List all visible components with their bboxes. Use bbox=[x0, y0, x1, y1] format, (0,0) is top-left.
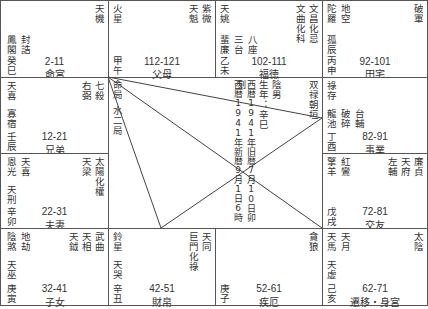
star-tianma: 天馬 bbox=[326, 232, 337, 252]
main-star: 太陰 bbox=[413, 232, 424, 252]
age-range: 72-81 bbox=[323, 206, 427, 217]
palace-xiongdi[interactable]: 七殺 右弼 天喜 寡宿 壬辰 12-21 兄弟 bbox=[0, 77, 109, 154]
star-tianyao: 天姚 bbox=[219, 4, 230, 24]
pattern: 双禄朝垣 bbox=[308, 80, 319, 120]
star-guasu: 寡宿 bbox=[6, 109, 17, 129]
star-tianwu: 天巫 bbox=[6, 260, 17, 280]
age-range: 82-91 bbox=[323, 131, 427, 142]
minor-star: 天魁 bbox=[188, 4, 199, 24]
star-fengge: 鳳閣 bbox=[6, 35, 17, 55]
solar-date: 西暦1941年新暦9月1日6時 bbox=[233, 80, 243, 222]
palace-fumu[interactable]: 紫微 天魁 火星 甲午 112-121 父母 bbox=[108, 0, 216, 78]
palace-fude[interactable]: 文昌化忌 文曲化科 天姚 蜚廉 三台 八座 乙未 102-111 福徳 bbox=[215, 0, 323, 78]
main-star: 七殺 bbox=[94, 81, 105, 101]
main-star: 武曲 bbox=[94, 232, 105, 252]
birth-year: 生年：辛巳 bbox=[258, 80, 269, 130]
age-range: 22-31 bbox=[1, 206, 108, 217]
minor-star: 右弼 bbox=[81, 81, 92, 101]
palace-name: 疾厄 bbox=[216, 294, 322, 309]
palace-shiye[interactable]: 祿存 龍池 破碎 台輔 丁酉 82-91 事業 bbox=[322, 77, 428, 154]
main-star: 破軍 bbox=[413, 4, 424, 24]
star-feilian: 蜚廉 bbox=[219, 35, 230, 55]
palace-tianzhai[interactable]: 破軍 陀羅 地空 孤辰 丙申 92-101 田宅 bbox=[322, 0, 428, 78]
palace-name: 子女 bbox=[1, 294, 108, 309]
star-dijie: 地劫 bbox=[20, 232, 31, 252]
star-bazuo: 八座 bbox=[247, 35, 258, 55]
palace-caibo[interactable]: 天同 巨門化祿 鈴星 天哭 辛丑 42-51 財帛 bbox=[108, 228, 216, 306]
star-tianku: 天哭 bbox=[112, 260, 123, 280]
palace-qianyi[interactable]: 太陰 天馬 天月 天虚 己亥 62-71 遷移・身宮 bbox=[322, 228, 428, 306]
star-santai: 三台 bbox=[233, 35, 244, 55]
minor-star: 天相 bbox=[81, 232, 92, 252]
star-posui: 破碎 bbox=[340, 109, 351, 129]
star-tianyue: 天月 bbox=[340, 232, 351, 252]
star-tuoluo: 陀羅 bbox=[326, 4, 337, 24]
minor-star: 文曲化科 bbox=[295, 4, 306, 44]
star-tianxu: 天虚 bbox=[326, 260, 337, 280]
star-lucun: 祿存 bbox=[326, 81, 337, 101]
main-star: 太陽化權 bbox=[94, 157, 105, 197]
minor-star: 天梁 bbox=[81, 157, 92, 177]
palace-ming[interactable]: 天機 封誥 鳳閣 癸巳 2-11 命宮 bbox=[0, 0, 109, 78]
minor-star: 天府 bbox=[400, 157, 411, 177]
star-taifu: 台輔 bbox=[354, 109, 365, 129]
main-star: 廉貞 bbox=[413, 157, 424, 177]
minor-star: 左輔 bbox=[387, 157, 398, 177]
star-enguang: 恩光 bbox=[6, 157, 17, 177]
star-dikong: 地空 bbox=[340, 4, 351, 24]
main-star: 貪狼 bbox=[308, 232, 319, 252]
age-range: 32-41 bbox=[1, 283, 108, 294]
star-lingxing: 鈴星 bbox=[112, 232, 123, 252]
age-range: 12-21 bbox=[1, 131, 108, 142]
main-star: 文昌化忌 bbox=[308, 4, 319, 44]
star-tianxi: 天喜 bbox=[20, 157, 31, 177]
ju-label: 命局 bbox=[112, 80, 123, 100]
palace-name: 財帛 bbox=[109, 294, 215, 309]
star-hongluan: 紅鸞 bbox=[340, 157, 351, 177]
star-fenggao: 封誥 bbox=[20, 35, 31, 55]
palace-jie[interactable]: 貪狼 庚子 52-61 疾厄 bbox=[215, 228, 323, 306]
minor-star: 巨門化祿 bbox=[188, 232, 199, 272]
main-star: 紫微 bbox=[201, 4, 212, 24]
age-range: 62-71 bbox=[323, 283, 427, 294]
star-qingyang: 擎羊 bbox=[326, 157, 337, 177]
star-huoxing: 火星 bbox=[112, 4, 123, 24]
palace-zinv[interactable]: 武曲 天相 天鉞 陰煞 地劫 天巫 庚寅 32-41 子女 bbox=[0, 228, 109, 306]
age-range: 52-61 bbox=[216, 283, 322, 294]
center-info: 命局 水二局 双禄朝垣 陰男 生年：辛巳 西暦1941年旧暦7月10日卯刻 西暦… bbox=[108, 77, 322, 228]
minor-star: 天鉞 bbox=[68, 232, 79, 252]
gender: 陰男 bbox=[271, 80, 282, 100]
age-range: 42-51 bbox=[109, 283, 215, 294]
star-longchi: 龍池 bbox=[326, 109, 337, 129]
star-guchen: 孤辰 bbox=[326, 35, 337, 55]
star-tianxing: 天刑 bbox=[6, 185, 17, 205]
star-yinsha: 陰煞 bbox=[6, 232, 17, 252]
main-star: 天機 bbox=[94, 4, 105, 24]
palace-fuqi[interactable]: 太陽化權 天梁 恩光 天喜 天刑 辛卯 22-31 夫妻 bbox=[0, 153, 109, 229]
palace-name: 遷移・身宮 bbox=[323, 294, 427, 309]
star-tianxi: 天喜 bbox=[6, 81, 17, 101]
main-star: 天同 bbox=[201, 232, 212, 252]
five-element-ju: 水二局 bbox=[112, 106, 123, 136]
palace-jiaoyou[interactable]: 廉貞 天府 左輔 擎羊 紅鸞 戊戌 72-81 交友 bbox=[322, 153, 428, 229]
